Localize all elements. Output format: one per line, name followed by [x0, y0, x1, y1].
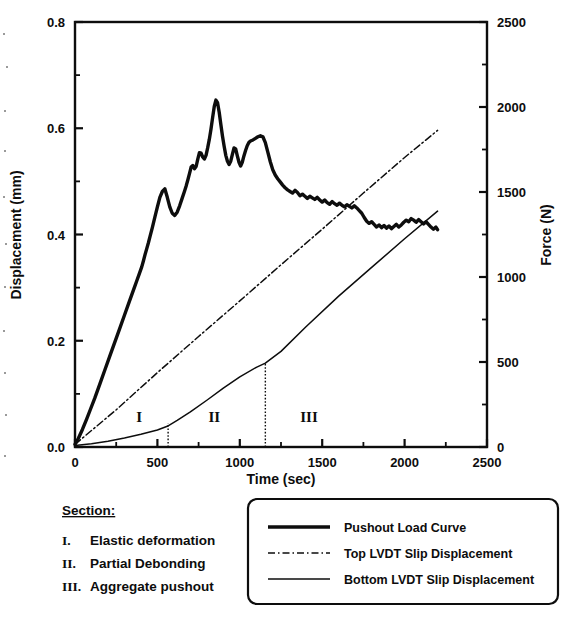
section-marker-iii: III — [300, 409, 318, 425]
legend-label: Pushout Load Curve — [344, 521, 466, 535]
section-key-numeral: I. — [62, 533, 71, 548]
scan-speckle — [4, 372, 6, 374]
scan-speckle — [3, 330, 5, 332]
pushout-test-chart: 05001000150020002500 0.00.20.40.60.8 050… — [0, 0, 568, 628]
legend-label: Bottom LVDT Slip Displacement — [344, 573, 535, 587]
section-key-numeral: III. — [62, 579, 81, 594]
y2-tick-label: 2000 — [497, 100, 526, 115]
x-tick-label: 2500 — [473, 455, 502, 470]
x-tick-label: 0 — [71, 455, 78, 470]
section-marker-i: I — [136, 409, 142, 425]
y2-tick-label: 0 — [497, 440, 504, 455]
scan-speckle — [3, 33, 5, 35]
x-tick-label: 1500 — [308, 455, 337, 470]
scan-speckle — [5, 414, 7, 416]
section-key-text: Partial Debonding — [90, 556, 206, 571]
y2-tick-label: 500 — [497, 355, 519, 370]
y-tick-label: 0.6 — [47, 121, 65, 136]
section-marker-ii: II — [208, 409, 220, 425]
y2-tick-label: 1500 — [497, 185, 526, 200]
scan-speckle — [4, 150, 6, 152]
scan-speckle — [6, 66, 8, 68]
y2-axis-title: Force (N) — [538, 204, 554, 265]
y2-tick-label: 1000 — [497, 270, 526, 285]
scan-speckle — [4, 286, 6, 288]
y-tick-label: 0.0 — [47, 440, 65, 455]
scan-speckle — [5, 243, 7, 245]
x-tick-label: 1000 — [225, 455, 254, 470]
section-key-heading: Section: — [62, 503, 115, 518]
x-tick-label: 500 — [147, 455, 169, 470]
y2-tick-label: 2500 — [497, 15, 526, 30]
figure-container: 05001000150020002500 0.00.20.40.60.8 050… — [0, 0, 568, 628]
scan-speckle — [3, 196, 5, 198]
section-key-text: Aggregate pushout — [90, 579, 214, 594]
legend-label: Top LVDT Slip Displacement — [344, 547, 513, 561]
x-axis-title: Time (sec) — [247, 471, 316, 487]
scan-speckle — [4, 455, 6, 457]
y-tick-label: 0.2 — [47, 334, 65, 349]
section-key-numeral: II. — [62, 556, 76, 571]
y-tick-label: 0.4 — [47, 228, 66, 243]
legend: Pushout Load CurveTop LVDT Slip Displace… — [248, 499, 558, 604]
section-key-text: Elastic deformation — [90, 533, 215, 548]
y-axis-title: Displacement (mm) — [8, 170, 24, 299]
y-tick-label: 0.8 — [47, 15, 65, 30]
x-tick-label: 2000 — [390, 455, 419, 470]
scan-speckle — [4, 110, 6, 112]
